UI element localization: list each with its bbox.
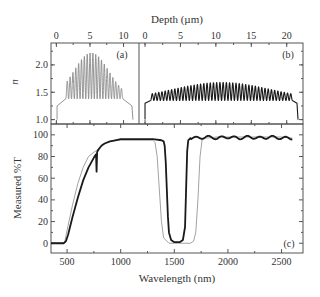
top-x-tick-label: 0 xyxy=(143,30,148,41)
top-x-tick-label: 15 xyxy=(246,30,256,41)
bottom-y-tick-label: 80 xyxy=(38,151,48,162)
top-y-axis-title: n xyxy=(8,79,20,85)
bottom-axes: 5001000150020002500020406080100 xyxy=(33,124,303,267)
top-x-tick-label: 20 xyxy=(282,30,292,41)
bottom-y-tick-label: 40 xyxy=(38,194,48,205)
thin-transmission-curve xyxy=(51,137,292,243)
bottom-x-tick-label: 2000 xyxy=(218,256,238,267)
panel-label-a: (a) xyxy=(116,49,127,61)
bottom-x-tick-label: 2500 xyxy=(272,256,292,267)
bottom-y-tick-label: 60 xyxy=(38,173,48,184)
bottom-y-tick-label: 20 xyxy=(38,216,48,227)
top-x-axis-title: Depth (µm) xyxy=(151,13,203,26)
panel-c-curves xyxy=(51,136,292,243)
panel-label-c: (c) xyxy=(283,238,294,250)
top-x-tick-label: 10 xyxy=(211,30,221,41)
top-x-tick-label: 10 xyxy=(119,30,129,41)
bottom-y-axis-title: Measured %T xyxy=(11,157,23,219)
figure: 0510051015201.01.52.0 500100015002000250… xyxy=(0,0,320,297)
top-y-tick-label: 1.5 xyxy=(36,87,49,98)
bottom-x-axis-title: Wavelength (nm) xyxy=(139,272,216,285)
bottom-y-tick-label: 0 xyxy=(43,238,48,249)
bottom-x-tick-label: 1000 xyxy=(111,256,131,267)
top-x-tick-label: 5 xyxy=(87,30,92,41)
thick-transmission-curve xyxy=(51,136,292,243)
bottom-x-tick-label: 1500 xyxy=(164,256,184,267)
panel-label-b: (b) xyxy=(282,49,294,61)
top-x-tick-label: 0 xyxy=(54,30,59,41)
top-y-tick-label: 2.0 xyxy=(36,59,49,70)
bottom-y-tick-label: 100 xyxy=(33,129,48,140)
panel-a-curve xyxy=(57,53,133,120)
panel-b-curve xyxy=(145,82,298,119)
top-x-tick-label: 5 xyxy=(178,30,183,41)
bottom-x-tick-label: 500 xyxy=(60,256,75,267)
top-y-tick-label: 1.0 xyxy=(36,114,49,125)
bottom-frame xyxy=(51,124,303,253)
